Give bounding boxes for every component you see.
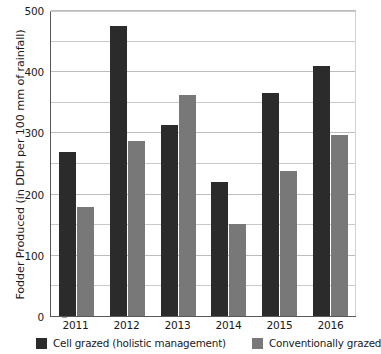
bar-2014-series-0 xyxy=(211,182,228,317)
x-axis-tick-label-2013: 2013 xyxy=(152,319,203,331)
bar-2016-series-0 xyxy=(313,66,330,317)
plot-area xyxy=(50,11,356,317)
gridline xyxy=(51,10,356,11)
y-axis-tick-label: 400 xyxy=(16,66,44,78)
legend-label-1: Conventionally grazed xyxy=(269,337,381,349)
x-axis-baseline xyxy=(51,316,356,317)
bar-2012-series-1 xyxy=(128,141,145,317)
legend-entry-1[interactable]: Conventionally grazed xyxy=(252,337,381,349)
x-axis-tick-label-2016: 2016 xyxy=(305,319,356,331)
bar-2016-series-1 xyxy=(331,135,348,317)
y-axis-tick-labels: 0100200300400500 xyxy=(16,0,44,354)
bar-group-2013 xyxy=(153,12,204,317)
x-axis-tick-label-2012: 2012 xyxy=(101,319,152,331)
bars-layer xyxy=(51,12,356,317)
bar-2014-series-1 xyxy=(229,224,246,317)
bar-group-2012 xyxy=(102,12,153,317)
x-axis-tick-label-2011: 2011 xyxy=(50,319,101,331)
x-axis-tick-label-2015: 2015 xyxy=(254,319,305,331)
bar-group-2014 xyxy=(203,12,254,317)
x-axis-tick-labels: 201120122013201420152016 xyxy=(50,319,356,331)
legend-swatch-icon-1 xyxy=(252,338,263,349)
bar-2013-series-0 xyxy=(161,125,178,317)
legend-entry-0[interactable]: Cell grazed (holistic management) xyxy=(36,337,226,349)
bar-2011-series-0 xyxy=(59,152,76,317)
bar-group-2011 xyxy=(51,12,102,317)
bar-2015-series-1 xyxy=(280,171,297,317)
y-axis-tick-label: 0 xyxy=(16,311,44,323)
bar-2012-series-0 xyxy=(110,26,127,317)
bar-2015-series-0 xyxy=(262,93,279,317)
y-axis-tick-label: 300 xyxy=(16,127,44,139)
y-axis-tick-label: 100 xyxy=(16,250,44,262)
chart-legend: Cell grazed (holistic management)Convent… xyxy=(36,337,363,349)
bar-group-2015 xyxy=(254,12,305,317)
bar-group-2016 xyxy=(305,12,356,317)
legend-swatch-icon-0 xyxy=(36,338,47,349)
y-axis-tick-label: 200 xyxy=(16,189,44,201)
bar-2011-series-1 xyxy=(77,207,94,317)
y-axis-tick-label: 500 xyxy=(16,5,44,17)
bar-2013-series-1 xyxy=(179,95,196,317)
legend-label-0: Cell grazed (holistic management) xyxy=(53,337,226,349)
x-axis-tick-label-2014: 2014 xyxy=(203,319,254,331)
